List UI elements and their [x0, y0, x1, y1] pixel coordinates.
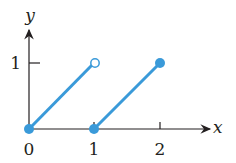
closed-point-origin	[24, 124, 34, 134]
segment-2	[94, 63, 160, 129]
tick-label-x2: 2	[155, 139, 166, 159]
tick-label-x0: 0	[24, 139, 35, 159]
closed-point-2-1	[155, 58, 165, 68]
segment-1	[29, 63, 94, 129]
x-axis-label: x	[213, 117, 223, 137]
y-axis-label: y	[24, 5, 35, 25]
tick-label-x1: 1	[89, 139, 100, 159]
chart: 0 1 2 1 x y	[0, 0, 236, 163]
open-point-1-1	[91, 59, 99, 67]
tick-label-y1: 1	[10, 53, 21, 73]
closed-point-1-0	[89, 124, 99, 134]
